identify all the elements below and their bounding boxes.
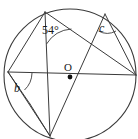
angle-label-54: 54° <box>42 24 59 36</box>
center-label-o: O <box>64 62 72 73</box>
center-point-dot <box>68 75 73 80</box>
angle-label-b: b <box>14 82 20 94</box>
diagram-canvas: 54° c b O <box>0 0 138 139</box>
angle-label-c: c <box>99 22 104 34</box>
main-circle <box>4 9 136 139</box>
